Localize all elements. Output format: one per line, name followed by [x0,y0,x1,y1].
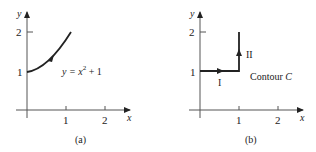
y-axis-label: y [189,8,195,19]
x-tick-label-1: 1 [63,114,69,126]
x-axis-label: x [126,112,132,123]
y-tick-label-1: 1 [17,66,23,78]
segment-1-arrow-icon [217,68,224,74]
y-tick-label-2: 2 [189,26,195,38]
curve-label: y = x2 + 1 [61,64,102,77]
panel-a: 1 2 2 1 x y y = x2 + 1 (a) [16,8,132,146]
y-tick-label-2: 2 [16,26,22,38]
segment-2-label: II [246,49,253,60]
direction-arrow-icon [48,55,54,62]
x-tick-label-2: 2 [275,114,281,126]
y-axis-label: y [16,8,22,19]
contour-path [200,32,239,71]
figure: 1 2 2 1 x y y = x2 + 1 (a) 1 2 2 1 x y I… [0,0,316,152]
contour-label: Contour C [250,71,292,82]
x-tick-label-1: 1 [236,114,242,126]
y-tick-label-1: 1 [190,66,196,78]
caption-b: (b) [245,134,257,146]
segment-1-label: I [218,77,221,88]
caption-a: (a) [75,134,86,146]
x-axis-label: x [299,112,305,123]
x-tick-label-2: 2 [102,114,108,126]
segment-2-arrow-icon [236,49,242,56]
panel-b: 1 2 2 1 x y I II Contour C (b) [189,8,305,146]
